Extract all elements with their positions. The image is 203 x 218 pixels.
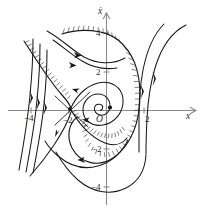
y-tick-label-minus2: −2 [92, 144, 102, 154]
x-tick-label-minus4: −4 [24, 113, 34, 123]
x-tick-label-2: 2 [145, 114, 150, 124]
y-axis-label: ẋ [97, 6, 103, 16]
y-tick-label-minus4: −4 [91, 182, 101, 192]
origin-label: O [96, 114, 103, 124]
x-tick-label-minus2: −2 [63, 115, 73, 125]
trajectory-outer-bottom [56, 152, 146, 192]
arrow-right-descend [153, 71, 157, 86]
trajectory-right-inner [139, 24, 164, 152]
y-tick-label-2: 2 [96, 67, 101, 77]
arrow-right-inner-descend [141, 84, 145, 99]
trajectory-right-descending [146, 25, 186, 154]
trajectory-upper-left-outer [47, 31, 125, 63]
arrow-spiral-inward [72, 89, 80, 94]
arrow-upper-left [69, 62, 77, 68]
x-axis-label: x [185, 111, 191, 121]
trajectory-left-bundle-1 [19, 39, 33, 170]
phase-portrait-figure: −4 −2 2 4 2 −2 −4 O x ẋ [0, 0, 203, 218]
y-tick-label-4: 4 [96, 28, 101, 38]
separatrix-outer-hatching [63, 26, 140, 157]
trajectory-upper-left [53, 40, 117, 69]
focus-point [108, 105, 112, 109]
phase-portrait-canvas: −4 −2 2 4 2 −2 −4 O x ẋ [0, 0, 203, 218]
